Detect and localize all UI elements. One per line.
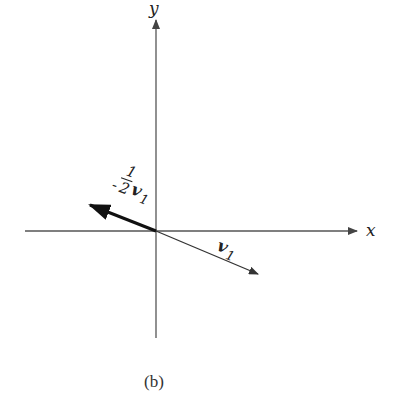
x-axis-label: x [366, 220, 376, 240]
vector-neg-half-v1-label: 1 - 2 v 1 [109, 159, 159, 208]
vector-v1-label: v 1 [213, 235, 239, 264]
vector-diagram: x y v 1 1 - 2 v 1 (b) [0, 0, 403, 409]
vector-neg-half-v1 [90, 205, 156, 231]
y-axis-label: y [148, 0, 159, 18]
vector-v1 [156, 231, 258, 274]
figure-caption: (b) [144, 372, 164, 391]
